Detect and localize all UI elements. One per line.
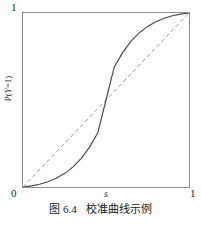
x-axis-title: s	[22, 189, 190, 199]
y-axis-title-prefix: P(	[3, 93, 13, 101]
figure-caption: 图 6.4校准曲线示例	[0, 203, 201, 216]
y-axis-title-suffix: =1)	[3, 76, 13, 89]
plot-canvas	[23, 13, 189, 187]
plot-area	[22, 12, 190, 188]
figure-caption-number: 图 6.4	[49, 203, 77, 215]
y-axis-title: P(Y=1)	[4, 59, 13, 119]
calibration-curve-figure: 1 0 1 s P(Y=1) 图 6.4校准曲线示例	[0, 0, 201, 225]
x-axis-max-tick-label: 1	[190, 188, 196, 199]
y-axis-max-tick-label: 1	[11, 2, 17, 13]
axis-origin-tick-label: 0	[11, 188, 17, 199]
y-axis-title-variable: Y	[3, 88, 13, 93]
figure-caption-text: 校准曲线示例	[86, 203, 152, 215]
